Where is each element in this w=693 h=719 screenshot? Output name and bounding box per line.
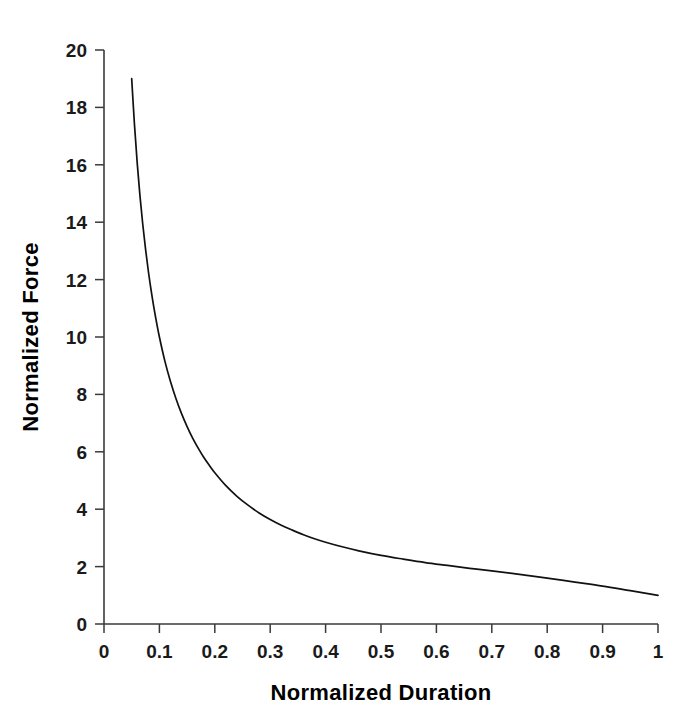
- x-tick-label: 0.6: [423, 641, 449, 662]
- x-tick-label: 0.9: [589, 641, 615, 662]
- chart-figure: 02468101214161820 00.10.20.30.40.50.60.7…: [0, 0, 693, 719]
- x-tick-label: 0: [99, 641, 110, 662]
- y-tick-label: 16: [66, 155, 87, 176]
- x-tick-label: 0.8: [534, 641, 560, 662]
- x-tick-label: 0.3: [257, 641, 283, 662]
- x-tick-label: 1: [653, 641, 664, 662]
- y-tick-label: 2: [76, 557, 87, 578]
- y-tick-label: 10: [66, 327, 87, 348]
- y-tick-label: 12: [66, 270, 87, 291]
- x-tick-label: 0.1: [146, 641, 173, 662]
- y-tick-label: 6: [76, 442, 87, 463]
- y-tick-label: 4: [76, 499, 87, 520]
- x-tick-label: 0.2: [202, 641, 228, 662]
- x-tick-label: 0.5: [368, 641, 395, 662]
- x-tick-label: 0.4: [312, 641, 339, 662]
- y-tick-label: 14: [66, 212, 88, 233]
- x-axis-title: Normalized Duration: [271, 680, 492, 705]
- y-axis-title: Normalized Force: [18, 242, 43, 431]
- y-tick-label: 20: [66, 40, 87, 61]
- normalized-force-vs-duration-chart: 02468101214161820 00.10.20.30.40.50.60.7…: [0, 0, 693, 719]
- y-tick-label: 0: [76, 614, 87, 635]
- y-tick-label: 8: [76, 384, 87, 405]
- x-tick-label: 0.7: [479, 641, 505, 662]
- y-tick-label: 18: [66, 97, 87, 118]
